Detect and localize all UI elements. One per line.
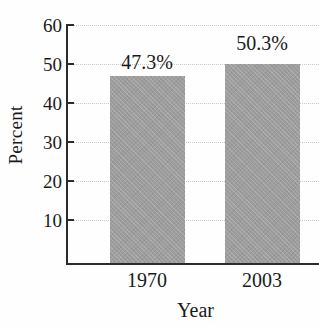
y-tick-mark-60: [67, 24, 74, 26]
y-axis-title: Percent: [5, 75, 27, 195]
x-tick-label-2003: 2003: [217, 270, 307, 290]
bar-value-2003: 50.3%: [217, 33, 307, 53]
bar-1970: [110, 76, 185, 264]
y-tick-mark-10: [67, 219, 74, 221]
bar-value-1970: 47.3%: [102, 52, 192, 72]
gridline-60: [67, 25, 319, 26]
x-axis-line: [66, 263, 319, 265]
bar-2003: [225, 64, 300, 264]
y-tick-mark-50: [67, 63, 74, 65]
y-tick-label-50: 50: [2, 55, 62, 74]
y-tick-mark-20: [67, 180, 74, 182]
x-tick-label-1970: 1970: [102, 270, 192, 290]
y-axis-line: [66, 24, 68, 265]
y-tick-label-10: 10: [2, 211, 62, 230]
y-tick-mark-30: [67, 141, 74, 143]
x-axis-title: Year: [0, 300, 319, 320]
y-tick-mark-40: [67, 102, 74, 104]
bar-chart: 60 50 40 30 20 10 Percent 47.3% 50.3% 19…: [0, 0, 319, 326]
y-tick-label-60: 60: [2, 16, 62, 35]
